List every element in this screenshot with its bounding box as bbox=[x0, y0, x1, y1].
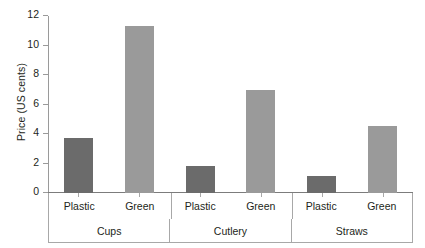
plot-area: 024681012 bbox=[48, 16, 413, 193]
y-axis-tick-label: 12 bbox=[27, 8, 39, 20]
group-label-straws: Straws bbox=[292, 219, 412, 242]
subcategory-label-cups-green: Green bbox=[110, 193, 171, 219]
y-axis-tick: 8 bbox=[43, 74, 48, 75]
y-axis-title: Price (US cents) bbox=[15, 37, 27, 167]
y-axis-tick-label: 4 bbox=[33, 126, 39, 138]
bar-chart: Price (US cents) 024681012 PlasticGreenP… bbox=[0, 0, 425, 248]
group-label-cutlery: Cutlery bbox=[170, 219, 291, 242]
bar-cutlery-plastic bbox=[186, 166, 215, 193]
y-axis-tick-label: 6 bbox=[33, 97, 39, 109]
group-label-cups: Cups bbox=[49, 219, 170, 242]
group-divider bbox=[292, 193, 293, 219]
bar-straws-plastic bbox=[307, 176, 336, 193]
y-axis-tick-label: 8 bbox=[33, 67, 39, 79]
y-axis-tick: 2 bbox=[43, 163, 48, 164]
category-label-table: PlasticGreenPlasticGreenPlasticGreen Cup… bbox=[48, 193, 413, 243]
bar-straws-green bbox=[368, 126, 397, 193]
group-divider bbox=[171, 193, 172, 219]
subcategory-label-cups-plastic: Plastic bbox=[49, 193, 110, 219]
y-axis-tick: 10 bbox=[43, 45, 48, 46]
y-axis-tick-label: 2 bbox=[33, 156, 39, 168]
subcategory-row: PlasticGreenPlasticGreenPlasticGreen bbox=[49, 193, 412, 219]
y-axis-tick: 12 bbox=[43, 15, 48, 16]
group-row: CupsCutleryStraws bbox=[49, 219, 412, 242]
y-axis-tick: 4 bbox=[43, 133, 48, 134]
y-axis-line bbox=[48, 16, 49, 193]
y-axis-tick-label: 0 bbox=[33, 185, 39, 197]
subcategory-label-straws-plastic: Plastic bbox=[291, 193, 352, 219]
subcategory-label-cutlery-plastic: Plastic bbox=[170, 193, 231, 219]
y-axis-tick: 6 bbox=[43, 104, 48, 105]
bar-cups-plastic bbox=[64, 138, 93, 193]
subcategory-label-cutlery-green: Green bbox=[231, 193, 292, 219]
bar-cups-green bbox=[125, 26, 154, 193]
subcategory-label-straws-green: Green bbox=[352, 193, 413, 219]
y-axis-tick-label: 10 bbox=[27, 38, 39, 50]
bar-cutlery-green bbox=[246, 90, 275, 193]
